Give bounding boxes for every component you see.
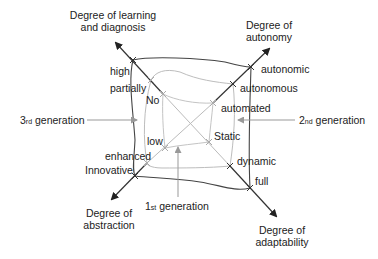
third-generation-word: generation: [35, 114, 85, 126]
first-generation-word: generation: [159, 200, 209, 212]
level-enhanced: enhanced: [105, 150, 151, 162]
level-autonomous: autonomous: [240, 82, 298, 94]
second-generation-label: 2nd generation: [299, 114, 365, 126]
first-generation-num: 1: [145, 200, 151, 212]
axis-title-adaptability-line2: adaptability: [255, 236, 308, 248]
axis-title-learning: Degree of learning and diagnosis: [70, 9, 156, 33]
axis-title-autonomy-line2: autonomy: [246, 31, 292, 43]
level-full: full: [255, 175, 268, 187]
level-dynamic: dynamic: [237, 155, 276, 167]
axis-title-learning-line2: and diagnosis: [70, 21, 156, 33]
level-automated: automated: [221, 102, 271, 114]
axis-title-adaptability-line1: Degree of: [255, 224, 308, 236]
first-generation-label: 1st generation: [145, 200, 209, 212]
level-high: high: [110, 65, 130, 77]
level-autonomic: autonomic: [261, 63, 309, 75]
level-static: Static: [214, 130, 240, 142]
radar-diagram: Degree of learning and diagnosis Degree …: [0, 0, 378, 259]
axis-title-autonomy-line1: Degree of: [246, 19, 292, 31]
second-generation-num: 2: [299, 114, 305, 126]
level-innovative: Innovative: [85, 164, 133, 176]
axis-title-adaptability: Degree of adaptability: [255, 224, 308, 248]
second-generation-word: generation: [316, 114, 366, 126]
axis-title-abstraction: Degree of abstraction: [83, 207, 134, 231]
level-low: low: [147, 135, 163, 147]
axis-title-abstraction-line1: Degree of: [83, 207, 134, 219]
axis-title-learning-line1: Degree of learning: [70, 9, 156, 21]
third-generation-label: 3rd generation: [20, 114, 85, 126]
axis-autonomy: [213, 49, 269, 103]
axis-title-abstraction-line2: abstraction: [83, 219, 134, 231]
diagram-graphics: [0, 0, 378, 259]
level-no: No: [146, 94, 159, 106]
axis-title-autonomy: Degree of autonomy: [246, 19, 292, 43]
third-generation-num: 3: [20, 114, 26, 126]
level-partially: partially: [110, 82, 146, 94]
